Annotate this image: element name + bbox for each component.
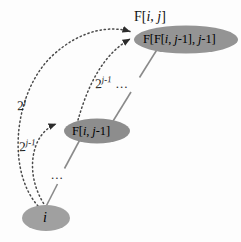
ellipsis-bottom-path: ... [51, 168, 64, 181]
solid-edge-bottom-stub [47, 184, 58, 206]
node-middle-label-prefix: F[ [72, 124, 83, 138]
solid-edge-to-middle [65, 141, 80, 169]
node-top-caption-suffix: ] [161, 9, 166, 24]
node-top-caption-prefix: F[ [134, 9, 146, 24]
edge-label-pow-j-minus-1-lower-exponent: j-1 [25, 137, 35, 147]
recursive-doubling-diagram: F[i, j] F[F[i, j-1], j-1] F[i, j-1] i 2j… [0, 0, 241, 242]
node-bottom-label: i [43, 211, 47, 225]
node-top-label-sub1: -1], [178, 32, 198, 46]
node-middle-label-suffix: -1] [96, 124, 110, 138]
edge-label-pow-j: 2j [17, 99, 26, 113]
edge-label-pow-j-exponent: j [23, 96, 26, 106]
edge-label-pow-j-minus-1-lower: 2j-1 [19, 140, 36, 154]
node-middle-label: F[i, j-1] [72, 125, 110, 138]
edge-label-pow-j-minus-1-upper-dots: ... [116, 76, 129, 91]
edge-label-pow-j-minus-1-upper-exponent: j-1 [101, 74, 111, 84]
node-top-caption: F[i, j] [134, 10, 166, 24]
node-top-label-prefix: F[F[ [143, 32, 165, 46]
node-top-label-suffix: -1] [201, 32, 215, 46]
edge-label-pow-j-minus-1-upper: 2j-1... [95, 77, 129, 91]
node-top-label: F[F[i, j-1], j-1] [143, 33, 216, 46]
dotted-arrow-bottom-to-top [18, 29, 130, 206]
